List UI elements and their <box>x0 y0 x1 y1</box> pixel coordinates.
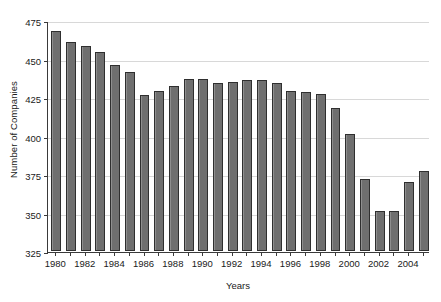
x-tick-mark-1993 <box>246 252 247 256</box>
x-tick-mark-1985 <box>129 252 130 256</box>
x-tick-mark-2004 <box>408 252 409 256</box>
x-axis-title: Years <box>47 280 429 291</box>
x-tick-mark-1999 <box>335 252 336 256</box>
bar-1982 <box>81 46 91 251</box>
bar-2004 <box>404 182 414 251</box>
y-tick-label-325: 325 <box>25 248 41 259</box>
y-tick-label-425: 425 <box>25 94 41 105</box>
x-tick-label-1992: 1992 <box>221 258 242 269</box>
x-tick-label-1990: 1990 <box>192 258 213 269</box>
x-tick-label-1982: 1982 <box>74 258 95 269</box>
x-tick-mark-1998 <box>320 252 321 256</box>
y-tick-mark-325 <box>44 253 48 254</box>
y-tick-label-375: 375 <box>25 171 41 182</box>
bar-1986 <box>140 95 150 251</box>
bar-2002 <box>375 211 385 251</box>
x-tick-mark-1992 <box>232 252 233 256</box>
y-tick-mark-375 <box>44 176 48 177</box>
x-tick-mark-1994 <box>261 252 262 256</box>
x-tick-mark-1991 <box>217 252 218 256</box>
bar-1990 <box>198 79 208 251</box>
x-tick-mark-2001 <box>364 252 365 256</box>
y-tick-mark-425 <box>44 99 48 100</box>
bar-1985 <box>125 72 135 251</box>
bar-2001 <box>360 179 370 251</box>
x-tick-label-1988: 1988 <box>162 258 183 269</box>
bar-1999 <box>331 108 341 251</box>
bar-1992 <box>228 82 238 251</box>
bar-1984 <box>110 65 120 251</box>
bar-1988 <box>169 86 179 251</box>
y-tick-mark-400 <box>44 138 48 139</box>
x-tick-mark-1980 <box>55 252 56 256</box>
bar-1980 <box>51 31 61 251</box>
bar-2005 <box>419 171 429 251</box>
bar-series <box>49 22 429 251</box>
x-tick-mark-1984 <box>114 252 115 256</box>
bar-1983 <box>95 52 105 251</box>
x-tick-mark-1986 <box>144 252 145 256</box>
y-tick-label-475: 475 <box>25 17 41 28</box>
bar-chart-figure: Number of Companies 32535037540042545047… <box>0 0 441 302</box>
x-tick-label-1994: 1994 <box>250 258 271 269</box>
x-tick-mark-1988 <box>173 252 174 256</box>
x-tick-mark-2003 <box>393 252 394 256</box>
y-axis-title: Number of Companies <box>2 0 24 258</box>
bar-1981 <box>66 42 76 251</box>
y-tick-label-350: 350 <box>25 209 41 220</box>
bar-1987 <box>154 91 164 251</box>
y-tick-label-450: 450 <box>25 55 41 66</box>
x-tick-mark-1981 <box>70 252 71 256</box>
x-tick-mark-2000 <box>349 252 350 256</box>
x-tick-label-1986: 1986 <box>133 258 154 269</box>
bar-1993 <box>242 80 252 251</box>
x-tick-mark-1997 <box>305 252 306 256</box>
bar-1997 <box>301 92 311 251</box>
x-tick-label-1980: 1980 <box>45 258 66 269</box>
bar-1998 <box>316 94 326 251</box>
bar-1996 <box>286 91 296 251</box>
x-tick-mark-2002 <box>379 252 380 256</box>
x-tick-mark-1990 <box>202 252 203 256</box>
bar-1991 <box>213 83 223 251</box>
bar-1989 <box>184 79 194 251</box>
plot-area: 325350375400425450475 198019821984198619… <box>47 22 429 253</box>
x-tick-label-1996: 1996 <box>280 258 301 269</box>
bar-1995 <box>272 83 282 251</box>
bar-2000 <box>345 134 355 251</box>
y-tick-mark-475 <box>44 22 48 23</box>
x-tick-label-2000: 2000 <box>339 258 360 269</box>
x-tick-label-1984: 1984 <box>104 258 125 269</box>
x-tick-mark-1982 <box>85 252 86 256</box>
x-tick-mark-1996 <box>290 252 291 256</box>
x-tick-mark-2005 <box>423 252 424 256</box>
x-tick-label-2004: 2004 <box>397 258 418 269</box>
x-tick-mark-1983 <box>99 252 100 256</box>
x-tick-mark-1995 <box>276 252 277 256</box>
bar-2003 <box>389 211 399 251</box>
y-tick-mark-450 <box>44 61 48 62</box>
y-tick-mark-350 <box>44 215 48 216</box>
x-tick-label-2002: 2002 <box>368 258 389 269</box>
x-tick-mark-1987 <box>158 252 159 256</box>
x-tick-mark-1989 <box>188 252 189 256</box>
bar-1994 <box>257 80 267 251</box>
y-axis-title-text: Number of Companies <box>8 81 19 178</box>
x-tick-label-1998: 1998 <box>309 258 330 269</box>
y-tick-label-400: 400 <box>25 132 41 143</box>
